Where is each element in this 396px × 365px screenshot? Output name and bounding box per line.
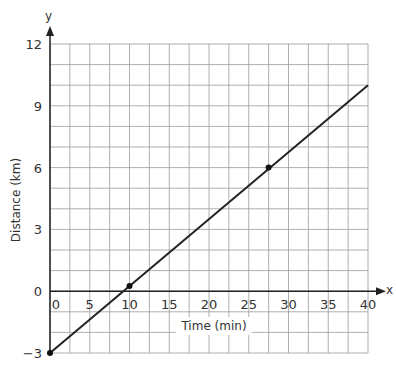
y-tick-label: 6 xyxy=(34,161,42,176)
y-tick-label: 9 xyxy=(34,99,42,114)
y-axis-name: y xyxy=(45,9,52,23)
x-tick-label: 35 xyxy=(320,297,337,312)
x-tick-label: 40 xyxy=(360,297,377,312)
data-point xyxy=(266,165,272,171)
x-tick-label: 25 xyxy=(240,297,257,312)
x-axis-name: x xyxy=(386,283,393,297)
line-chart: 0510152025303540129630−3 Time (min) Dist… xyxy=(0,0,396,365)
x-tick-label: 15 xyxy=(161,297,178,312)
x-tick-label: 30 xyxy=(280,297,297,312)
y-tick-label: −3 xyxy=(23,346,42,361)
data-point xyxy=(127,283,133,289)
x-tick-label: 10 xyxy=(121,297,138,312)
y-axis-label: Distance (km) xyxy=(9,158,23,242)
plot-line xyxy=(47,85,368,356)
x-tick-label: 20 xyxy=(201,297,218,312)
y-tick-label: 12 xyxy=(25,37,42,52)
x-tick-label: 5 xyxy=(86,297,94,312)
y-tick-label: 0 xyxy=(34,284,42,299)
data-point xyxy=(47,350,53,356)
y-tick-label: 3 xyxy=(34,222,42,237)
x-tick-label: 0 xyxy=(52,297,60,312)
x-axis-label: Time (min) xyxy=(180,319,246,333)
